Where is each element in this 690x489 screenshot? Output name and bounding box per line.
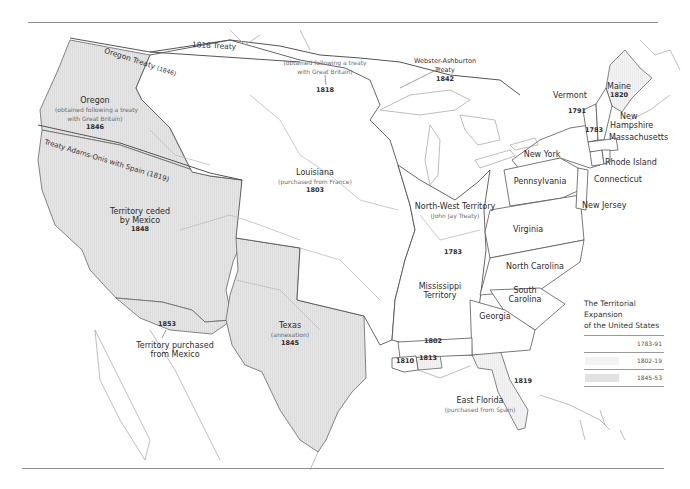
label-1783-nh: 1783	[582, 126, 606, 135]
cuba	[540, 395, 610, 430]
legend-row-1802-19: 1802-19	[584, 352, 664, 369]
label-north-carolina: North Carolina	[500, 262, 570, 271]
lake-huron	[460, 115, 500, 145]
label-texas: Texas (annexation) 1845	[260, 321, 320, 348]
label-red-river-1818: (obtained following a treaty with Great …	[270, 58, 380, 95]
legend-swatch-1783-91	[585, 340, 619, 348]
bahamas	[580, 410, 625, 440]
label-pennsylvania: Pennsylvania	[510, 177, 570, 186]
region-maine	[606, 50, 652, 112]
label-east-florida-year: 1819	[508, 377, 538, 386]
lake-superior	[380, 90, 470, 115]
legend-row-1783-91: 1783-91	[584, 335, 664, 352]
state-connecticut	[590, 150, 604, 166]
label-oregon: Oregon (obtained following a treaty with…	[55, 96, 135, 132]
label-louisiana: Louisiana (purchased from France) 1803	[270, 168, 360, 195]
label-1810: 1810	[392, 357, 418, 366]
lake-michigan	[425, 125, 440, 185]
legend-swatch-1802-19	[585, 357, 619, 365]
label-massachusetts: Massachusetts	[609, 133, 668, 142]
legend-title: The Territorial Expansion of the United …	[584, 298, 664, 331]
label-mississippi-territory: Mississippi Territory	[410, 282, 470, 300]
label-south-carolina: South Carolina	[505, 286, 545, 304]
map-legend: The Territorial Expansion of the United …	[584, 298, 664, 387]
label-connecticut: Connecticut	[594, 175, 642, 184]
label-1783: 1783	[438, 248, 468, 257]
label-mexican-cession: Territory ceded by Mexico 1848	[100, 207, 180, 234]
label-1791: 1791	[565, 107, 589, 116]
canada-coast	[640, 40, 680, 70]
label-new-hampshire: New Hampshire	[610, 112, 653, 130]
lake-erie	[475, 150, 515, 168]
label-rhode-island: Rhode Island	[605, 158, 657, 167]
label-1813: 1813	[416, 354, 440, 363]
label-vermont: Vermont	[550, 91, 590, 100]
leader-gadsden	[162, 330, 166, 338]
region-east-florida	[472, 350, 528, 430]
label-georgia: Georgia	[475, 312, 515, 321]
label-1802: 1802	[418, 337, 448, 346]
label-east-florida: East Florida (purchased from Spain)	[440, 396, 520, 414]
mexico-gulf-coast	[310, 452, 318, 470]
label-gadsden: Territory purchased from Mexico	[130, 341, 220, 359]
label-maine: Maine 1820	[604, 82, 634, 100]
label-virginia: Virginia	[508, 225, 548, 234]
label-webster-ashburton: Webster-Ashburton Treaty 1842	[400, 57, 490, 84]
legend-swatch-1845-53	[585, 374, 619, 382]
label-gadsden-year: 1853	[152, 320, 182, 329]
legend-row-1845-53: 1845-53	[584, 369, 664, 387]
label-northwest-territory: North-West Territory (John Jay Treaty)	[405, 202, 505, 220]
label-new-york: New York	[517, 150, 567, 159]
label-new-jersey: New Jersey	[582, 201, 626, 210]
